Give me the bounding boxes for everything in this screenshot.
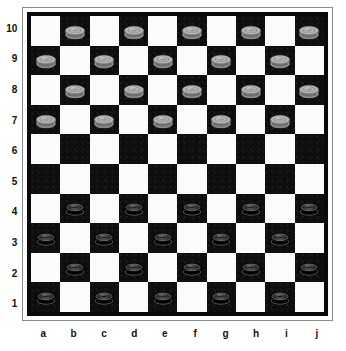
square-h2[interactable] bbox=[236, 253, 265, 283]
white-piece-f10[interactable] bbox=[181, 21, 203, 39]
square-h8[interactable] bbox=[236, 75, 265, 105]
square-i1[interactable] bbox=[265, 282, 294, 312]
black-piece-f2[interactable] bbox=[181, 258, 203, 276]
square-j6[interactable] bbox=[295, 134, 324, 164]
black-piece-g1[interactable] bbox=[210, 288, 232, 306]
black-piece-h4[interactable] bbox=[240, 199, 262, 217]
square-f2[interactable] bbox=[177, 253, 206, 283]
square-c1[interactable] bbox=[90, 282, 119, 312]
square-c10[interactable] bbox=[90, 16, 119, 46]
square-h4[interactable] bbox=[236, 194, 265, 224]
square-f8[interactable] bbox=[177, 75, 206, 105]
square-f4[interactable] bbox=[177, 194, 206, 224]
black-piece-c3[interactable] bbox=[93, 228, 115, 246]
square-e6[interactable] bbox=[148, 134, 177, 164]
square-f9[interactable] bbox=[177, 46, 206, 76]
black-piece-j4[interactable] bbox=[298, 199, 320, 217]
square-f5[interactable] bbox=[177, 164, 206, 194]
square-f7[interactable] bbox=[177, 105, 206, 135]
square-j4[interactable] bbox=[295, 194, 324, 224]
square-f1[interactable] bbox=[177, 282, 206, 312]
white-piece-c7[interactable] bbox=[93, 110, 115, 128]
black-piece-i3[interactable] bbox=[269, 228, 291, 246]
white-piece-h10[interactable] bbox=[240, 21, 262, 39]
square-a3[interactable] bbox=[31, 223, 60, 253]
square-j3[interactable] bbox=[295, 223, 324, 253]
square-b3[interactable] bbox=[60, 223, 89, 253]
square-b6[interactable] bbox=[60, 134, 89, 164]
white-piece-h8[interactable] bbox=[240, 80, 262, 98]
white-piece-a7[interactable] bbox=[35, 110, 57, 128]
square-i6[interactable] bbox=[265, 134, 294, 164]
square-b2[interactable] bbox=[60, 253, 89, 283]
white-piece-i7[interactable] bbox=[269, 110, 291, 128]
square-b7[interactable] bbox=[60, 105, 89, 135]
square-c6[interactable] bbox=[90, 134, 119, 164]
square-j5[interactable] bbox=[295, 164, 324, 194]
square-h5[interactable] bbox=[236, 164, 265, 194]
square-g7[interactable] bbox=[207, 105, 236, 135]
black-piece-d2[interactable] bbox=[122, 258, 144, 276]
square-i8[interactable] bbox=[265, 75, 294, 105]
square-d6[interactable] bbox=[119, 134, 148, 164]
square-a10[interactable] bbox=[31, 16, 60, 46]
square-g8[interactable] bbox=[207, 75, 236, 105]
square-h7[interactable] bbox=[236, 105, 265, 135]
square-d7[interactable] bbox=[119, 105, 148, 135]
square-e3[interactable] bbox=[148, 223, 177, 253]
white-piece-a9[interactable] bbox=[35, 51, 57, 69]
square-d1[interactable] bbox=[119, 282, 148, 312]
white-piece-f8[interactable] bbox=[181, 80, 203, 98]
square-g10[interactable] bbox=[207, 16, 236, 46]
square-e7[interactable] bbox=[148, 105, 177, 135]
square-a6[interactable] bbox=[31, 134, 60, 164]
square-d3[interactable] bbox=[119, 223, 148, 253]
square-i5[interactable] bbox=[265, 164, 294, 194]
square-h9[interactable] bbox=[236, 46, 265, 76]
square-b9[interactable] bbox=[60, 46, 89, 76]
square-e8[interactable] bbox=[148, 75, 177, 105]
square-d8[interactable] bbox=[119, 75, 148, 105]
square-i9[interactable] bbox=[265, 46, 294, 76]
square-b8[interactable] bbox=[60, 75, 89, 105]
square-c7[interactable] bbox=[90, 105, 119, 135]
square-d4[interactable] bbox=[119, 194, 148, 224]
square-d5[interactable] bbox=[119, 164, 148, 194]
square-j10[interactable] bbox=[295, 16, 324, 46]
square-j1[interactable] bbox=[295, 282, 324, 312]
square-j2[interactable] bbox=[295, 253, 324, 283]
square-a4[interactable] bbox=[31, 194, 60, 224]
black-piece-a3[interactable] bbox=[35, 228, 57, 246]
white-piece-e7[interactable] bbox=[152, 110, 174, 128]
black-piece-b2[interactable] bbox=[64, 258, 86, 276]
white-piece-g9[interactable] bbox=[210, 51, 232, 69]
square-g9[interactable] bbox=[207, 46, 236, 76]
black-piece-j2[interactable] bbox=[298, 258, 320, 276]
square-a8[interactable] bbox=[31, 75, 60, 105]
square-b4[interactable] bbox=[60, 194, 89, 224]
black-piece-h2[interactable] bbox=[240, 258, 262, 276]
white-piece-g7[interactable] bbox=[210, 110, 232, 128]
square-i3[interactable] bbox=[265, 223, 294, 253]
white-piece-j10[interactable] bbox=[298, 21, 320, 39]
square-g5[interactable] bbox=[207, 164, 236, 194]
square-a1[interactable] bbox=[31, 282, 60, 312]
square-c5[interactable] bbox=[90, 164, 119, 194]
square-f10[interactable] bbox=[177, 16, 206, 46]
square-a2[interactable] bbox=[31, 253, 60, 283]
square-j8[interactable] bbox=[295, 75, 324, 105]
black-piece-e3[interactable] bbox=[152, 228, 174, 246]
black-piece-g3[interactable] bbox=[210, 228, 232, 246]
square-a7[interactable] bbox=[31, 105, 60, 135]
square-i2[interactable] bbox=[265, 253, 294, 283]
white-piece-b8[interactable] bbox=[64, 80, 86, 98]
square-g6[interactable] bbox=[207, 134, 236, 164]
square-a5[interactable] bbox=[31, 164, 60, 194]
square-i7[interactable] bbox=[265, 105, 294, 135]
white-piece-c9[interactable] bbox=[93, 51, 115, 69]
square-b5[interactable] bbox=[60, 164, 89, 194]
black-piece-a1[interactable] bbox=[35, 288, 57, 306]
square-a9[interactable] bbox=[31, 46, 60, 76]
square-f3[interactable] bbox=[177, 223, 206, 253]
black-piece-b4[interactable] bbox=[64, 199, 86, 217]
